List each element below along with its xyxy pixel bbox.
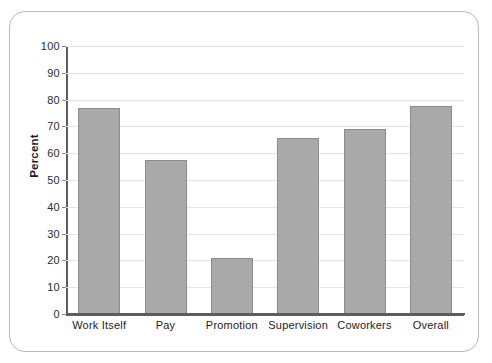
- bar-coworkers: [344, 129, 386, 314]
- y-tick-label-20: 20: [26, 255, 60, 266]
- y-tick-label-80: 80: [26, 95, 60, 106]
- gridline-40: [66, 207, 464, 208]
- y-tick-mark-30: [62, 234, 66, 235]
- bar-promotion: [211, 258, 253, 314]
- gridline-70: [66, 126, 464, 127]
- y-tick-mark-90: [62, 73, 66, 74]
- x-tick-label-pay: Pay: [132, 319, 198, 332]
- gridline-90: [66, 73, 464, 74]
- y-tick-mark-100: [62, 46, 66, 47]
- y-tick-mark-50: [62, 180, 66, 181]
- y-tick-label-70: 70: [26, 121, 60, 132]
- gridline-20: [66, 260, 464, 261]
- bar-overall: [410, 106, 452, 314]
- y-tick-label-30: 30: [26, 229, 60, 240]
- x-tick-label-supervision: Supervision: [265, 319, 331, 332]
- gridline-30: [66, 234, 464, 235]
- plot-area: [66, 46, 464, 314]
- bar-supervision: [277, 138, 319, 314]
- y-tick-label-0: 0: [26, 309, 60, 320]
- y-tick-mark-10: [62, 287, 66, 288]
- bar-chart: Percent 0102030405060708090100 Work Itse…: [0, 0, 492, 363]
- x-tick-label-coworkers: Coworkers: [331, 319, 397, 332]
- gridline-100: [66, 46, 464, 47]
- y-tick-label-40: 40: [26, 202, 60, 213]
- y-tick-label-60: 60: [26, 148, 60, 159]
- y-tick-label-90: 90: [26, 68, 60, 79]
- gridline-50: [66, 180, 464, 181]
- clipped-title-text: [0, 0, 492, 1]
- gridline-10: [66, 287, 464, 288]
- y-tick-label-50: 50: [26, 175, 60, 186]
- gridline-60: [66, 153, 464, 154]
- x-tick-label-overall: Overall: [398, 319, 464, 332]
- y-tick-label-100: 100: [26, 41, 60, 52]
- bar-pay: [145, 160, 187, 314]
- x-tick-label-promotion: Promotion: [199, 319, 265, 332]
- y-tick-label-10: 10: [26, 282, 60, 293]
- y-tick-mark-70: [62, 126, 66, 127]
- y-tick-mark-80: [62, 100, 66, 101]
- gridline-80: [66, 100, 464, 101]
- x-axis-line: [66, 313, 465, 315]
- bar-work-itself: [78, 108, 120, 314]
- y-axis-tick-labels: 0102030405060708090100: [20, 46, 60, 314]
- y-tick-mark-20: [62, 260, 66, 261]
- x-tick-label-work-itself: Work Itself: [66, 319, 132, 332]
- y-tick-mark-40: [62, 207, 66, 208]
- y-tick-mark-60: [62, 153, 66, 154]
